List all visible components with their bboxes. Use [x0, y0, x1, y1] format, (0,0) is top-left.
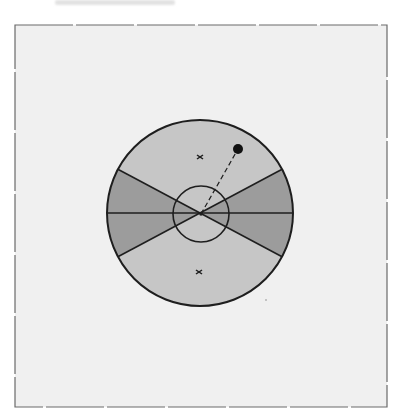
center-point — [199, 212, 203, 216]
diagram-canvas — [0, 0, 395, 418]
stray-speck — [265, 299, 267, 301]
black-dot — [233, 144, 243, 154]
